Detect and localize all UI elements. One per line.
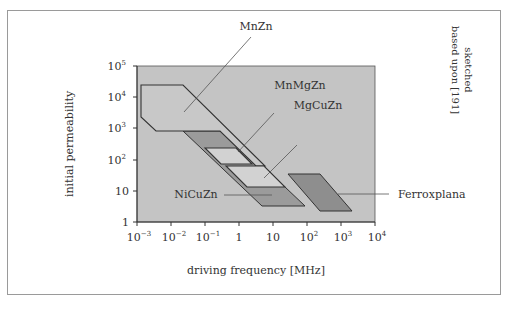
svg-text:1: 1 [122,216,129,229]
svg-text:10−2: 10−2 [162,230,186,244]
y-tick-labels: 105 104 103 102 10 1 [108,59,129,229]
x-axis-label: driving frequency [MHz] [187,264,325,277]
svg-text:105: 105 [108,59,126,73]
y-axis-label: initial permeability [63,90,76,197]
label-mnmgzn: MnMgZn [274,79,325,92]
x-ticks [137,222,375,226]
svg-text:1: 1 [236,231,243,244]
label-mgcuzn: MgCuZn [294,99,343,112]
svg-text:102: 102 [108,153,126,167]
x-tick-labels: 10−3 10−2 10−1 1 10 102 103 104 [127,230,387,244]
note-sketched: sketched [463,47,474,93]
y-ticks [133,66,137,222]
svg-text:10: 10 [115,185,129,198]
svg-text:104: 104 [108,90,127,104]
svg-text:102: 102 [300,230,318,244]
label-nicuzn: NiCuZn [174,188,217,201]
svg-text:10−3: 10−3 [127,230,151,244]
chart: 105 104 103 102 10 1 10−3 10−2 10−1 1 10… [0,0,510,314]
note-based-upon: based upon [191] [450,26,461,114]
svg-text:104: 104 [368,230,387,244]
label-mnzn: MnZn [239,20,272,33]
svg-text:10−1: 10−1 [196,230,220,244]
svg-text:10: 10 [266,231,280,244]
label-ferroxplana: Ferroxplana [398,188,466,201]
svg-text:103: 103 [334,230,352,244]
svg-text:103: 103 [108,121,126,135]
